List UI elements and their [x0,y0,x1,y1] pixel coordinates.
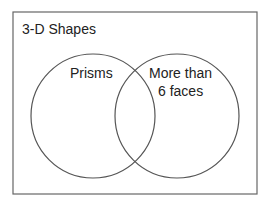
venn-diagram: 3-D Shapes Prisms More than 6 faces [0,0,265,204]
set-label-prisms: Prisms [70,65,113,81]
set-label-more-than-6-faces-line1: More than [149,65,212,81]
universe-label: 3-D Shapes [22,21,96,37]
set-label-more-than-6-faces-line2: 6 faces [158,83,203,99]
universe-box [13,12,257,194]
